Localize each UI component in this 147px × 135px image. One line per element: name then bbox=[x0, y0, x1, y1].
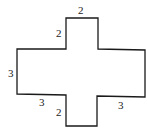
label-bottom-right-length: 3 bbox=[118, 99, 124, 111]
label-bottom-arm-height: 2 bbox=[56, 106, 62, 118]
label-left-height: 3 bbox=[8, 67, 14, 79]
label-bottom-left-length: 3 bbox=[39, 96, 45, 108]
cross-outline bbox=[17, 18, 145, 126]
label-top-arm-height: 2 bbox=[56, 27, 62, 39]
cross-figure: 2 2 3 3 2 3 bbox=[0, 0, 147, 135]
label-top-width: 2 bbox=[78, 4, 84, 16]
